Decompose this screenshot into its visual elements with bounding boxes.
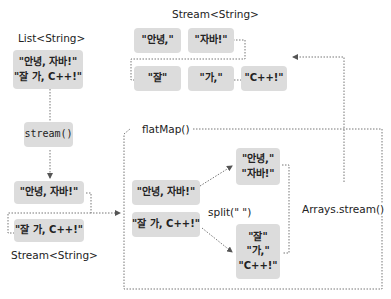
result-item-2: "자바!" xyxy=(188,28,234,53)
list-type-label: List<String> xyxy=(18,32,85,44)
stream-top-label: Stream<String> xyxy=(172,8,259,20)
flatmap-input-2: "잘 가, C++!" xyxy=(132,212,200,237)
split-group-2-item-2: "가," xyxy=(246,244,269,259)
stream-method-box: stream() xyxy=(24,122,73,147)
split-group-1-item-2: "자바!" xyxy=(242,167,275,182)
split-group-1-item-1: "안녕," xyxy=(242,152,274,167)
list-item-1: "안녕, 자바!" xyxy=(19,55,77,70)
stream-item-1: "안녕, 자바!" xyxy=(14,181,84,204)
flatmap-input-1: "안녕, 자바!" xyxy=(132,180,200,205)
split-group-1: "안녕," "자바!" xyxy=(236,148,280,185)
split-label: split(" ") xyxy=(208,206,251,218)
list-item-2: "잘 가, C++!" xyxy=(14,70,82,85)
result-item-1: "안녕," xyxy=(134,28,181,53)
arrays-stream-label: Arrays.stream() xyxy=(300,203,386,215)
split-group-2-item-3: "C++!" xyxy=(238,259,277,274)
list-box: "안녕, 자바!" "잘 가, C++!" xyxy=(13,50,83,89)
split-group-2: "잘" "가," "C++!" xyxy=(236,224,280,279)
result-item-4: "가," xyxy=(188,66,234,91)
split-group-2-item-1: "잘" xyxy=(248,230,267,245)
flatmap-label: flatMap() xyxy=(140,123,192,135)
result-item-5: "C++!" xyxy=(241,66,287,91)
result-item-3: "잘" xyxy=(134,66,181,91)
stream-item-2: "잘 가, C++!" xyxy=(14,219,84,242)
stream-method-text: stream() xyxy=(24,127,72,142)
stream-bottom-label: Stream<String> xyxy=(11,249,98,261)
